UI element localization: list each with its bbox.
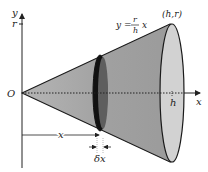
equation-denominator: h (133, 26, 138, 35)
origin-label: O (7, 88, 15, 99)
vertex-label: (h,r) (162, 9, 182, 19)
slice-width-label: δx (94, 153, 106, 164)
line-equation: y = r h x (115, 15, 147, 35)
equation-numerator: r (133, 15, 138, 24)
cone-diagram: y r O x h (h,r) y = r h x x δx (0, 0, 208, 172)
equation-lhs: y = (115, 20, 132, 30)
r-label: r (12, 18, 18, 29)
x-axis-label: x (196, 96, 202, 107)
slice-distance-label: x (58, 129, 64, 140)
y-axis-label: y (11, 7, 18, 18)
equation-variable: x (142, 20, 147, 30)
h-label: h (170, 97, 176, 108)
